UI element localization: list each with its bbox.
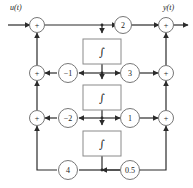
gain-feedforward-row3-label: 1 <box>128 114 132 123</box>
junction-dot-row2 <box>101 72 104 75</box>
junction-dot-bottom <box>101 169 104 172</box>
sum-out-low-sign: + <box>164 114 169 123</box>
sum-in-top-sign: + <box>35 21 40 30</box>
gain-feedback-row2-label: −1 <box>64 69 73 78</box>
wire-gain4-to-leftsum <box>37 126 57 170</box>
integral-icon-3: ∫ <box>99 138 105 151</box>
block-diagram-canvas: u(t) y(t) + + + + + + 2 −1 3 −2 1 4 0.5 … <box>0 0 193 188</box>
sum-out-top-sign: + <box>164 21 169 30</box>
sum-in-low-sign: + <box>35 114 40 123</box>
junction-dot-top <box>101 24 104 27</box>
sum-out-mid-sign: + <box>164 69 169 78</box>
wire-gain05-to-rightsum <box>140 126 166 170</box>
integral-icon-1: ∫ <box>99 46 105 59</box>
gain-feedback-bottom-label: 4 <box>66 166 70 175</box>
gain-feedforward-row2-label: 3 <box>128 69 132 78</box>
input-signal-label: u(t) <box>10 3 22 12</box>
integral-icon-2: ∫ <box>99 92 105 105</box>
sum-in-mid-sign: + <box>35 69 40 78</box>
gain-feedback-row3-label: −2 <box>64 114 73 123</box>
gain-feedforward-bot-label: 0.5 <box>125 166 135 175</box>
junction-dot-row3 <box>101 117 104 120</box>
gain-feedforward-top-label: 2 <box>121 21 125 30</box>
output-signal-label: y(t) <box>163 3 174 12</box>
